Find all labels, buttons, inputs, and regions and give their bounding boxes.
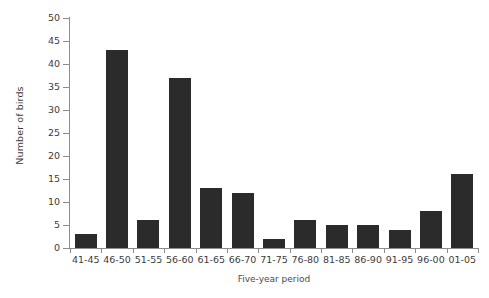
x-axis-tick-label: 86-90	[352, 255, 383, 265]
y-axis-tick-label-text: 25	[34, 128, 60, 138]
bar	[420, 211, 442, 248]
y-axis-tick-label-text: 40	[34, 59, 60, 69]
x-axis-tick-label: 76-80	[290, 255, 321, 265]
x-axis-tick	[196, 249, 197, 253]
x-axis-tick	[164, 249, 165, 253]
x-axis-tick-label: 01-05	[447, 255, 478, 265]
x-axis-tick	[227, 249, 228, 253]
bar	[326, 225, 348, 248]
y-axis-tick-label: 5	[30, 220, 60, 230]
y-axis-tick-label-text: 5	[34, 220, 60, 230]
y-axis-tick	[63, 87, 69, 88]
bar	[137, 220, 159, 248]
x-axis-tick-label: 66-70	[227, 255, 258, 265]
y-axis-title-label: Number of birds	[14, 86, 25, 164]
y-axis-tick-label-text: 45	[34, 36, 60, 46]
bar	[232, 193, 254, 248]
x-axis-tick	[321, 249, 322, 253]
y-axis-tick	[63, 64, 69, 65]
y-axis-tick-label: 15	[30, 174, 60, 184]
y-axis-tick	[63, 133, 69, 134]
bar	[169, 78, 191, 248]
x-axis-tick	[478, 249, 479, 253]
y-axis-tick-label-text: 0	[34, 243, 60, 253]
x-axis-tick-label: 41-45	[70, 255, 101, 265]
y-axis-tick-label-text: 10	[34, 197, 60, 207]
y-axis-tick	[63, 202, 69, 203]
bar	[263, 239, 285, 248]
plot-area	[70, 18, 478, 248]
y-axis-tick-label: 45	[30, 36, 60, 46]
y-axis-tick-label: 50	[30, 13, 60, 23]
x-axis-tick-label: 56-60	[164, 255, 195, 265]
bar	[200, 188, 222, 248]
y-axis-tick	[63, 179, 69, 180]
y-axis-tick-label: 35	[30, 82, 60, 92]
x-axis-tick	[70, 249, 71, 253]
bar	[357, 225, 379, 248]
x-axis-tick-label: 51-55	[133, 255, 164, 265]
y-axis-tick-label: 0	[30, 243, 60, 253]
x-axis-tick	[352, 249, 353, 253]
x-axis-tick-label: 61-65	[196, 255, 227, 265]
y-axis-tick-label: 40	[30, 59, 60, 69]
y-axis-tick-label: 20	[30, 151, 60, 161]
y-axis-tick	[63, 41, 69, 42]
bar	[389, 230, 411, 248]
x-axis-tick-label: 71-75	[258, 255, 289, 265]
x-axis-title: Five-year period	[70, 274, 478, 284]
x-axis-tick	[384, 249, 385, 253]
bar	[75, 234, 97, 248]
y-axis-tick-label: 25	[30, 128, 60, 138]
bar-chart: Number of birds 05101520253035404550 41-…	[0, 0, 489, 298]
x-axis-tick	[447, 249, 448, 253]
x-axis-tick	[101, 249, 102, 253]
y-axis-tick-label-text: 15	[34, 174, 60, 184]
y-axis-tick-label-text: 50	[34, 13, 60, 23]
x-axis-tick-label: 96-00	[415, 255, 446, 265]
y-axis-tick	[63, 225, 69, 226]
y-axis-tick-label: 10	[30, 197, 60, 207]
x-axis-tick-label: 81-85	[321, 255, 352, 265]
x-axis-tick	[415, 249, 416, 253]
x-axis-tick	[133, 249, 134, 253]
x-axis-line	[69, 248, 479, 249]
x-axis-tick-label: 46-50	[101, 255, 132, 265]
x-axis-tick	[290, 249, 291, 253]
x-axis-labels: 41-4546-5051-5556-6061-6566-7071-7576-80…	[70, 255, 478, 269]
y-axis-tick	[63, 248, 69, 249]
y-axis-tick-label-text: 20	[34, 151, 60, 161]
y-axis-tick	[63, 18, 69, 19]
y-axis-tick	[63, 156, 69, 157]
x-axis-tick-label: 91-95	[384, 255, 415, 265]
x-axis-title-label: Five-year period	[238, 274, 311, 284]
y-axis-title: Number of birds	[8, 0, 30, 250]
bar	[106, 50, 128, 248]
x-axis-tick	[258, 249, 259, 253]
y-axis-tick	[63, 110, 69, 111]
y-axis-tick-label: 30	[30, 105, 60, 115]
y-axis-tick-label-text: 30	[34, 105, 60, 115]
bar	[451, 174, 473, 248]
y-axis-tick-label-text: 35	[34, 82, 60, 92]
bar	[294, 220, 316, 248]
